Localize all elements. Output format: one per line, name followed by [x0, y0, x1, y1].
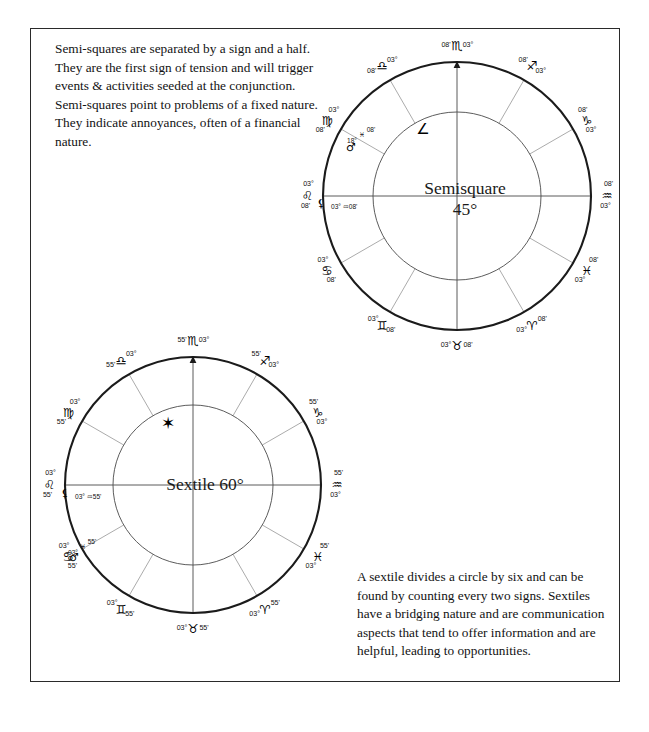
- zodiac-cusp-libra: ♎03°08': [367, 56, 398, 75]
- house-cusp-spoke: [262, 421, 304, 445]
- cusp-degree-label: 03°: [306, 562, 317, 570]
- semisquare-center-label: Semisquare 45°: [400, 178, 530, 220]
- cusp-minutes-label: 55': [57, 418, 66, 426]
- cusp-minutes-label: 55': [125, 610, 134, 618]
- cusp-minutes-label: 08': [367, 67, 376, 75]
- cusp-minutes-label: 08': [538, 315, 547, 323]
- zodiac-cusp-capricorn: ♑03°08': [578, 106, 597, 133]
- cusp-minutes-label: 08': [441, 41, 450, 49]
- cusp-degree-label: 03°: [268, 361, 279, 369]
- cusp-minutes-label: 55': [320, 542, 329, 550]
- house-cusp-spoke: [341, 238, 384, 263]
- cusp-minutes-label: 55': [252, 350, 261, 358]
- zodiac-cusp-pisces: ♓03°55': [306, 542, 330, 569]
- sign-glyph-icon: ♎: [376, 58, 387, 73]
- planet-degree-label: 03°: [68, 549, 78, 556]
- sextile-wheel-chart[interactable]: ♏03°55'♎03°55'♍03°55'♌03°55'♋03°55'♊03°5…: [28, 330, 358, 660]
- zodiac-cusp-capricorn: ♑03°55': [309, 398, 328, 425]
- cusp-minutes-label: 08': [463, 341, 472, 349]
- cusp-minutes-label: 55': [309, 398, 318, 406]
- cusp-minutes-label: 08': [519, 56, 528, 64]
- house-cusp-spoke: [390, 269, 415, 312]
- cusp-minutes-label: 08': [301, 202, 310, 210]
- cusp-minutes-label: 55': [43, 491, 52, 499]
- planet-sign-glyph-icon: ♓: [359, 131, 365, 138]
- cusp-degree-label: 03°: [70, 398, 81, 406]
- zodiac-cusp-sagittarius: ♐03°08': [519, 56, 547, 75]
- aspect-glyph-icon: ✶: [161, 413, 175, 433]
- house-cusp-spoke: [82, 421, 124, 445]
- cusp-degree-label: 03°: [516, 326, 527, 334]
- sextile-center-label: Sextile 60°: [120, 474, 290, 495]
- semisquare-description-paragraph: Semi-squares are separated by a sign and…: [55, 40, 323, 152]
- zodiac-cusp-aquarius: ♒03°08': [600, 180, 613, 210]
- zodiac-cusp-sagittarius: ♐03°55': [252, 350, 280, 369]
- cusp-minutes-label: 08': [386, 326, 395, 334]
- zodiac-cusp-libra: ♎03°55': [106, 350, 137, 369]
- house-cusp-spoke: [499, 80, 524, 123]
- sextile-description-paragraph: A sextile divides a circle by six and ca…: [357, 568, 607, 661]
- planet-marker-marker[interactable]: ⚸03° ♒55': [61, 487, 101, 500]
- zodiac-cusp-gemini: ♊03°08': [368, 315, 396, 334]
- zodiac-cusp-virgo: ♍03°08': [316, 106, 340, 133]
- house-cusp-spoke: [530, 238, 573, 263]
- cusp-minutes-label: 08': [578, 106, 587, 114]
- cusp-degree-label: 03°: [199, 336, 210, 344]
- cusp-minutes-label: 08': [327, 276, 336, 284]
- cusp-minutes-label: 08': [604, 180, 613, 188]
- cusp-degree-label: 03°: [600, 202, 611, 210]
- planet-position-label: 03° ♒08': [331, 203, 357, 210]
- sign-glyph-icon: ♈: [259, 602, 270, 617]
- planet-minutes-label: 55': [88, 538, 97, 545]
- zodiac-cusp-virgo: ♍03°55': [57, 398, 81, 425]
- sign-glyph-icon: ♏: [187, 333, 198, 348]
- house-cusp-spoke: [129, 374, 153, 416]
- cusp-degree-label: 03°: [45, 469, 56, 477]
- aspect-glyph-icon: ∠: [416, 120, 429, 138]
- planet-glyph-icon: ⚸: [317, 197, 325, 210]
- house-cusp-spoke: [530, 129, 573, 154]
- house-cusp-spoke: [390, 80, 415, 123]
- cusp-degree-label: 03°: [317, 418, 328, 426]
- cusp-minutes-label: 55': [177, 336, 186, 344]
- cusp-minutes-label: 55': [271, 599, 280, 607]
- cusp-minutes-label: 55': [106, 361, 115, 369]
- cusp-degree-label: 03°: [177, 624, 188, 632]
- cusp-minutes-label: 55': [334, 469, 343, 477]
- house-cusp-spoke: [262, 525, 304, 549]
- page-canvas: Semi-squares are separated by a sign and…: [0, 0, 649, 732]
- cusp-minutes-label: 08': [316, 126, 325, 134]
- planet-glyph-icon: ⚸: [61, 487, 69, 500]
- cusp-degree-label: 03°: [575, 276, 586, 284]
- zodiac-cusp-scorpio: ♏03°08': [441, 38, 473, 53]
- planet-position-label: 03° ♒55': [75, 493, 101, 500]
- cusp-degree-label: 03°: [535, 67, 546, 75]
- house-cusp-spoke: [233, 554, 257, 596]
- zodiac-cusp-taurus: ♉03°08': [441, 338, 473, 353]
- sign-glyph-icon: ♏: [451, 38, 462, 53]
- planet-minutes-label: 08': [367, 126, 376, 133]
- cusp-degree-label: 03°: [330, 491, 341, 499]
- zodiac-cusp-aquarius: ♒03°55': [330, 469, 343, 499]
- house-cusp-spoke: [233, 374, 257, 416]
- sign-glyph-icon: ♈: [526, 318, 537, 333]
- house-cusp-spoke: [499, 269, 524, 312]
- sign-glyph-icon: ♎: [115, 353, 126, 368]
- cusp-degree-label: 03°: [586, 126, 597, 134]
- cusp-degree-label: 03°: [387, 56, 398, 64]
- zodiac-cusp-leo: ♌03°55': [43, 469, 56, 499]
- zodiac-cusp-aries: ♈03°08': [516, 315, 547, 334]
- sign-glyph-icon: ♉: [451, 338, 462, 353]
- zodiac-cusp-aries: ♈03°55': [249, 599, 280, 618]
- zodiac-cusp-taurus: ♉03°55': [177, 621, 209, 636]
- zodiac-cusp-leo: ♌03°08': [301, 180, 314, 210]
- house-cusp-spoke: [82, 525, 124, 549]
- zodiac-cusp-cancer: ♋03°08': [318, 256, 336, 283]
- cusp-minutes-label: 08': [589, 256, 598, 264]
- cusp-minutes-label: 55': [199, 624, 208, 632]
- sign-glyph-icon: ♉: [187, 621, 198, 636]
- zodiac-cusp-scorpio: ♏03°55': [177, 333, 209, 348]
- house-cusp-spoke: [129, 554, 153, 596]
- cusp-degree-label: 03°: [368, 315, 379, 323]
- planet-marker-marker[interactable]: ⚸03° ♒08': [317, 197, 357, 210]
